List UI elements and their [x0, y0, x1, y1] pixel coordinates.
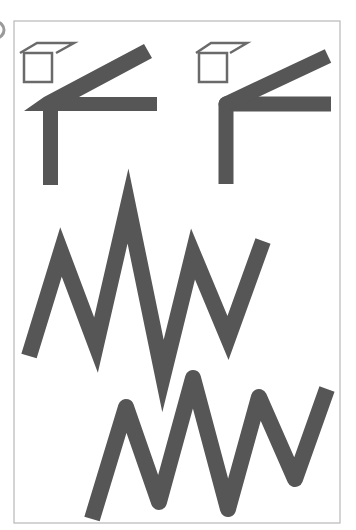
line-join-diagram [0, 0, 356, 530]
round-join-cap [219, 97, 234, 112]
edge-artifact [0, 22, 4, 38]
